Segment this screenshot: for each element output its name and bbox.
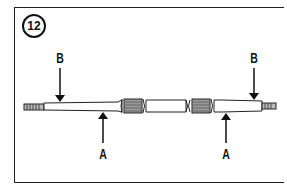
arrow-b-left xyxy=(55,68,65,102)
arrow-b-right xyxy=(249,68,259,100)
shaft-illustration xyxy=(0,0,287,193)
left-threaded-end xyxy=(24,104,44,110)
middle-shaft-section xyxy=(146,100,186,112)
label-a-right: A xyxy=(222,146,230,162)
arrow-a-left xyxy=(98,112,108,143)
arrow-a-right xyxy=(221,113,231,143)
right-shaft-section xyxy=(214,100,262,112)
left-spline xyxy=(121,99,145,113)
label-b-right: B xyxy=(250,50,258,66)
label-b-left: B xyxy=(56,50,64,66)
right-spline xyxy=(189,99,213,113)
left-shaft-section xyxy=(44,100,122,112)
right-threaded-end xyxy=(262,103,276,109)
label-a-left: A xyxy=(99,146,107,162)
